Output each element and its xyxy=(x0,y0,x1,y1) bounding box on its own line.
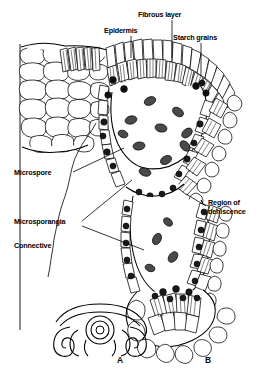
diagram-canvas: Fibrous layer Epidermis Starch grains Mi… xyxy=(0,0,273,382)
panel-label-a: A xyxy=(117,355,123,365)
label-starch-grains: Starch grains xyxy=(173,33,217,42)
label-connective: Connective xyxy=(14,241,51,250)
panel-label-b: B xyxy=(205,355,211,365)
label-region-of-dehiscence-line1: Region of xyxy=(208,198,241,207)
label-microspore: Microspore xyxy=(14,168,51,177)
label-fibrous-layer: Fibrous layer xyxy=(138,10,182,19)
fibrous-layer-left-cells xyxy=(60,47,100,72)
label-region-of-dehiscence-line2: dehiscence xyxy=(208,207,246,216)
label-microsporangia: Microsporangia xyxy=(14,217,67,226)
label-epidermis: Epidermis xyxy=(104,26,138,35)
